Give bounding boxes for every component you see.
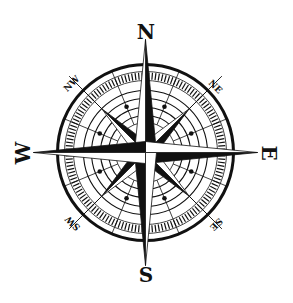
south-label: S [139, 263, 153, 287]
compass-star [34, 40, 258, 266]
west-label: W [11, 141, 35, 165]
southwest-label: SW [63, 213, 82, 232]
compass-rose: N S E W NE NW SE SW [0, 0, 293, 303]
east-label: E [257, 145, 281, 160]
north-label: N [137, 20, 155, 44]
compass-rose-graphic: N S E W NE NW SE SW [0, 0, 293, 303]
northwest-label: NW [62, 73, 83, 94]
southeast-label: SE [208, 216, 225, 233]
